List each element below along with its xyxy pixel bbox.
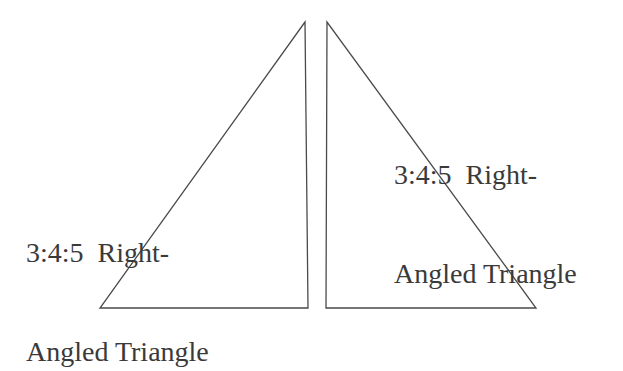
left-label-line-2: Angled Triangle (26, 335, 209, 368)
left-triangle-label: 3:4:5 Right- Angled Triangle (26, 170, 209, 371)
right-label-line-2: Angled Triangle (394, 257, 577, 290)
left-label-line-1: 3:4:5 Right- (26, 236, 209, 269)
right-label-line-1: 3:4:5 Right- (394, 158, 577, 191)
right-triangle-label: 3:4:5 Right- Angled Triangle (394, 92, 577, 323)
